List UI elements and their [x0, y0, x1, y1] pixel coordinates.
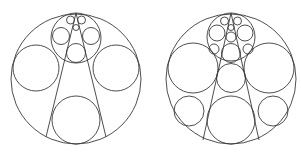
packed-circle [244, 43, 294, 93]
packed-circle [209, 25, 225, 41]
packed-circle [83, 28, 100, 45]
packed-circle [67, 44, 86, 63]
outer-circle [11, 14, 141, 144]
circle-packing-canvas [0, 0, 301, 158]
packed-circle [67, 16, 75, 24]
outer-circle [166, 14, 296, 144]
packed-circle [207, 96, 255, 144]
packed-circle [237, 25, 253, 41]
packed-circle [52, 96, 100, 144]
packed-circle [78, 16, 86, 24]
circle-packing-figure [0, 0, 301, 158]
tangent-line [76, 13, 106, 137]
packed-circle [222, 44, 241, 63]
right-packing [166, 13, 296, 144]
packed-circle [73, 25, 79, 31]
packed-circle [221, 17, 229, 25]
packed-circle [258, 96, 288, 126]
packed-circle [93, 45, 139, 91]
packed-circle [228, 25, 234, 31]
packed-circle [174, 96, 204, 126]
packed-circle [13, 45, 59, 91]
packed-circle [234, 17, 242, 25]
tangent-line [46, 13, 76, 137]
left-packing [11, 13, 141, 144]
packed-circle [226, 32, 236, 42]
packed-circle [168, 43, 218, 93]
packed-circle [53, 28, 70, 45]
packed-circle [217, 64, 246, 93]
packed-circle [51, 13, 101, 63]
